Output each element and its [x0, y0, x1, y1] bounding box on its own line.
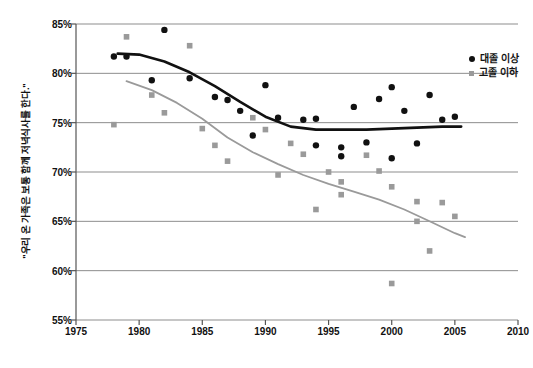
data-point-circle: [338, 153, 344, 159]
data-point-square: [414, 199, 420, 205]
data-point-circle: [401, 108, 407, 114]
data-point-square: [326, 169, 332, 175]
legend-label-1: 고졸 이하: [479, 66, 518, 80]
data-point-circle: [262, 82, 268, 88]
data-point-circle: [300, 117, 306, 123]
data-point-square: [263, 127, 269, 133]
chart-legend: 대졸 이상 고졸 이하: [469, 52, 519, 80]
chart-container: "우리 온 가족은 보통 함께 저녁식사를 한다." 55%60%65%70%7…: [0, 0, 533, 368]
plot-area: [0, 0, 533, 368]
legend-label-0: 대졸 이상: [480, 52, 519, 66]
square-marker-icon: [469, 71, 474, 76]
data-point-square: [162, 110, 168, 116]
data-point-square: [288, 141, 294, 147]
data-point-circle: [237, 108, 243, 114]
data-point-square: [111, 122, 117, 128]
data-point-square: [199, 126, 205, 132]
data-point-square: [338, 192, 344, 198]
data-point-square: [414, 219, 420, 225]
data-point-square: [212, 143, 218, 149]
data-point-square: [364, 152, 370, 158]
data-point-circle: [439, 117, 445, 123]
data-point-circle: [376, 96, 382, 102]
data-point-circle: [224, 97, 230, 103]
data-point-circle: [389, 155, 395, 161]
data-point-circle: [313, 142, 319, 148]
data-point-square: [275, 172, 281, 178]
legend-item-1: 고졸 이하: [469, 66, 519, 80]
data-point-square: [452, 214, 458, 220]
data-point-square: [313, 207, 319, 213]
data-point-square: [301, 151, 307, 157]
data-point-square: [389, 184, 395, 190]
data-point-square: [187, 43, 193, 49]
data-point-circle: [338, 144, 344, 150]
data-point-circle: [212, 94, 218, 100]
trend-line: [127, 81, 466, 237]
data-point-circle: [313, 116, 319, 122]
data-point-square: [225, 158, 231, 164]
data-point-circle: [414, 140, 420, 146]
data-point-square: [250, 115, 256, 121]
data-point-square: [376, 168, 382, 174]
data-point-circle: [389, 84, 395, 90]
data-point-circle: [186, 75, 192, 81]
data-point-square: [149, 92, 155, 98]
data-point-circle: [111, 53, 117, 59]
data-point-circle: [161, 27, 167, 33]
data-point-square: [124, 34, 130, 40]
trend-line: [118, 54, 462, 130]
legend-item-0: 대졸 이상: [469, 52, 519, 66]
data-point-circle: [250, 132, 256, 138]
data-point-square: [439, 200, 445, 206]
data-point-circle: [149, 77, 155, 83]
circle-marker-icon: [469, 56, 475, 62]
data-point-circle: [426, 92, 432, 98]
data-point-circle: [351, 104, 357, 110]
data-point-square: [389, 281, 395, 287]
data-point-circle: [452, 114, 458, 120]
data-point-circle: [363, 139, 369, 145]
data-point-square: [338, 179, 344, 185]
data-point-square: [427, 248, 433, 254]
